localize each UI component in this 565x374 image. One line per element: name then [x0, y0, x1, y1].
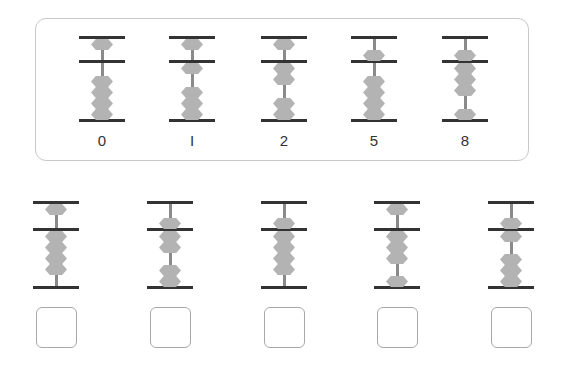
example-value-label: 5	[359, 132, 389, 149]
earth-bead	[500, 265, 522, 276]
earth-bead	[159, 242, 181, 253]
abacus-top-frame	[351, 36, 397, 39]
earth-bead	[181, 87, 203, 98]
earth-bead	[91, 76, 113, 87]
earth-bead	[273, 74, 295, 85]
abacus-beam	[33, 228, 79, 231]
example-value-label: 8	[450, 132, 480, 149]
earth-bead	[45, 242, 67, 253]
abacus-top-frame	[488, 201, 534, 204]
earth-bead	[45, 264, 67, 275]
abacus-beam	[79, 60, 125, 63]
abacus-top-frame	[442, 36, 488, 39]
exercise-abacus-2	[261, 202, 309, 290]
abacus-top-frame	[261, 36, 307, 39]
earth-bead	[181, 63, 203, 74]
example-value-label: 2	[269, 132, 299, 149]
earth-bead	[181, 98, 203, 109]
earth-bead	[386, 231, 408, 242]
answer-box[interactable]	[150, 307, 191, 348]
earth-bead	[273, 98, 295, 109]
heaven-bead	[273, 39, 295, 50]
abacus-bottom-frame	[261, 286, 307, 289]
earth-bead	[45, 231, 67, 242]
earth-bead	[273, 63, 295, 74]
earth-bead	[454, 74, 476, 85]
example-value-label: 0	[87, 132, 117, 149]
abacus-top-frame	[261, 201, 307, 204]
earth-bead	[363, 98, 385, 109]
abacus-top-frame	[79, 36, 125, 39]
abacus-beam	[374, 228, 420, 231]
earth-bead	[159, 265, 181, 276]
heaven-bead	[45, 204, 67, 215]
earth-bead	[91, 98, 113, 109]
earth-bead	[454, 63, 476, 74]
abacus-beam	[169, 60, 215, 63]
earth-bead	[363, 87, 385, 98]
answer-box[interactable]	[264, 307, 305, 348]
earth-bead	[454, 85, 476, 96]
exercise-abacus-0	[33, 202, 81, 290]
example-abacus-3	[351, 37, 399, 123]
example-abacus-2	[261, 37, 309, 123]
earth-bead	[91, 87, 113, 98]
exercise-abacus-1	[147, 202, 195, 290]
example-abacus-4	[442, 37, 490, 123]
heaven-bead	[181, 39, 203, 50]
exercise-abacus-4	[488, 202, 536, 290]
earth-bead	[386, 253, 408, 264]
answer-box[interactable]	[36, 307, 77, 348]
earth-bead	[273, 264, 295, 275]
earth-bead	[363, 76, 385, 87]
abacus-top-frame	[169, 36, 215, 39]
example-abacus-0	[79, 37, 127, 123]
answer-box[interactable]	[491, 307, 532, 348]
earth-bead	[273, 231, 295, 242]
earth-bead	[45, 253, 67, 264]
abacus-top-frame	[374, 201, 420, 204]
abacus-top-frame	[33, 201, 79, 204]
earth-bead	[386, 242, 408, 253]
example-abacus-1	[169, 37, 217, 123]
abacus-beam	[261, 60, 307, 63]
heaven-bead	[91, 39, 113, 50]
heaven-bead	[386, 204, 408, 215]
exercise-abacus-3	[374, 202, 422, 290]
earth-bead	[159, 231, 181, 242]
earth-bead	[273, 242, 295, 253]
earth-bead	[500, 254, 522, 265]
abacus-top-frame	[147, 201, 193, 204]
earth-bead	[273, 253, 295, 264]
earth-bead	[500, 231, 522, 242]
example-value-label: I	[177, 132, 207, 149]
abacus-bottom-frame	[33, 286, 79, 289]
answer-box[interactable]	[377, 307, 418, 348]
